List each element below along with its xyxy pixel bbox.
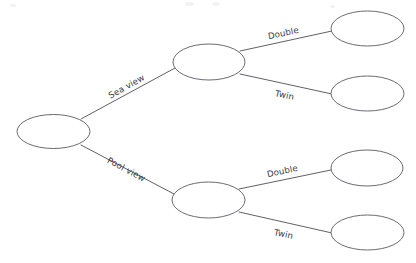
- node-pool-view[interactable]: [172, 182, 245, 218]
- branch-line-sea-view: [81, 68, 175, 119]
- edge-label-pool-twin: Twin: [272, 227, 294, 241]
- node-pool-twin[interactable]: [331, 215, 404, 250]
- edge-label-sea-twin: Twin: [273, 88, 295, 102]
- edge-label-pool-double: Double: [266, 163, 299, 179]
- tree-diagram-canvas: Sea view Pool view Double Twin Double Tw…: [0, 0, 416, 263]
- tree-diagram-svg: Sea view Pool view Double Twin Double Tw…: [0, 0, 416, 263]
- node-root[interactable]: [17, 115, 90, 149]
- node-pool-double[interactable]: [331, 150, 403, 186]
- node-sea-twin[interactable]: [331, 76, 404, 111]
- nodes-group: [17, 11, 404, 250]
- node-sea-view[interactable]: [173, 44, 245, 80]
- edge-label-pool-view: Pool view: [106, 155, 147, 183]
- node-sea-double[interactable]: [331, 11, 404, 46]
